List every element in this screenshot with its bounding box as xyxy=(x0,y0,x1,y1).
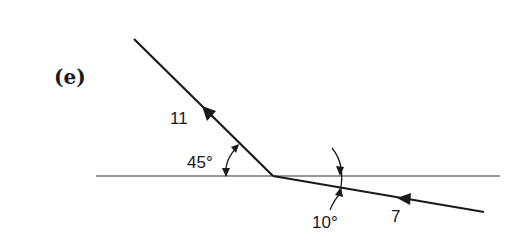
angle-10-leader xyxy=(330,194,340,210)
angle-45-arrow-top-icon xyxy=(231,144,239,153)
refracted-label: 7 xyxy=(391,207,400,226)
incident-label: 11 xyxy=(170,109,188,128)
diagram-figure: (e) 11 45° 7 10° xyxy=(0,0,528,246)
refracted-arrow-icon xyxy=(397,193,411,205)
angle-45-label: 45° xyxy=(187,153,213,172)
refracted-ray xyxy=(273,176,484,212)
angle-10-label: 10° xyxy=(312,213,338,232)
part-label: (e) xyxy=(54,65,86,89)
angle-10-arrow-top-icon xyxy=(336,166,344,176)
